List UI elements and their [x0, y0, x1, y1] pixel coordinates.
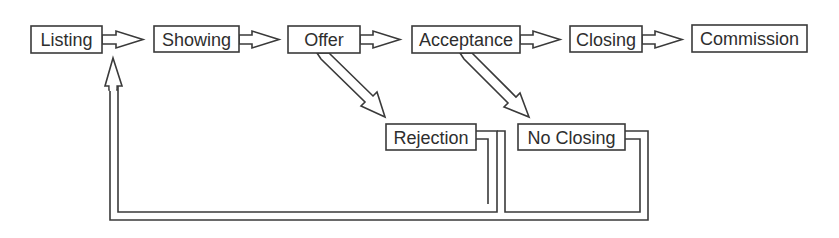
- node-label: Listing: [40, 30, 92, 50]
- node-label: Offer: [304, 30, 344, 50]
- arrow-showing-offer-icon: [239, 31, 279, 48]
- arrow-acceptance-no-closing-icon: [460, 53, 529, 117]
- node-listing: Listing: [31, 26, 102, 53]
- node-closing: Closing: [570, 26, 642, 52]
- node-offer: Offer: [288, 26, 360, 53]
- node-label: Showing: [162, 30, 231, 50]
- sales-process-diagram: Listing Showing Offer Acceptance Closing…: [0, 0, 839, 238]
- node-acceptance: Acceptance: [412, 26, 520, 53]
- arrow-offer-rejection-icon: [317, 53, 385, 117]
- arrow-offer-acceptance-icon: [360, 31, 400, 48]
- arrow-acceptance-closing-icon: [520, 31, 560, 48]
- node-label: Closing: [576, 30, 636, 50]
- node-no-closing: No Closing: [518, 124, 625, 150]
- arrow-closing-commission-icon: [642, 31, 682, 48]
- node-label: Rejection: [393, 128, 468, 148]
- arrow-listing-showing-icon: [102, 31, 143, 48]
- node-commission: Commission: [692, 25, 807, 52]
- node-label: No Closing: [527, 128, 615, 148]
- node-label: Commission: [700, 29, 799, 49]
- node-rejection: Rejection: [386, 124, 476, 150]
- node-label: Acceptance: [419, 30, 513, 50]
- node-showing: Showing: [154, 26, 239, 52]
